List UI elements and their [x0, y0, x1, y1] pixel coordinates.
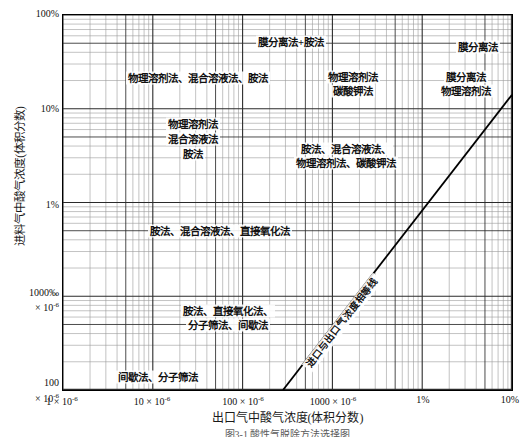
region-label-membrane: 膜分离法 [456, 41, 500, 54]
chart-plot-area: 膜分离法+胺法 膜分离法 物理溶剂法、混合溶液法、胺法 物理溶剂法 碳酸钾法 膜… [62, 14, 513, 391]
region-label-amine-mixed-physical-potash-line2: 物理溶剂法、碳酸钾法 [294, 157, 398, 170]
y-tick-1000ppm-line1: 1000‰ [29, 288, 59, 298]
region-label-amine-directox-sieve-batch-line2: 分子筛法、间歇法 [186, 319, 270, 332]
y-tick-1000ppm-line2: × 10-6 [35, 300, 59, 313]
x-tick-10ppm: 10 × 10-6 [134, 394, 170, 407]
y-tick-1000ppm-mantissa: × 10 [35, 302, 53, 313]
x-tick-1pct: 1% [416, 394, 429, 405]
x-tick-1ppm-mantissa: 1 × 10 [46, 396, 72, 407]
x-tick-1ppm-exponent: -6 [72, 395, 78, 403]
region-label-amine-directox-sieve-batch-line1: 胺法、直接氧化法、 [181, 305, 275, 318]
region-label-amine-mixed-physical-potash-line1: 胺法、混合溶液法、 [299, 143, 393, 156]
region-label-phys-mix-amine-line1: 物理溶剂法 [166, 118, 220, 131]
x-tick-1000ppm: 1000 × 10-6 [310, 394, 356, 407]
x-tick-10pct: 10% [501, 394, 519, 405]
y-tick-1pct: 1% [46, 200, 59, 210]
x-axis-title: 出口气中酸气浓度(体积分数) [62, 408, 513, 426]
x-tick-100ppm-mantissa: 100 × 10 [222, 396, 258, 407]
figure-caption: 图3-1 酸性气脱除方法选择图 [62, 426, 513, 437]
x-tick-1000ppm-mantissa: 1000 × 10 [310, 396, 351, 407]
x-tick-10ppm-exponent: -6 [164, 395, 170, 403]
region-label-amine-mixed-directox: 胺法、混合溶液法、直接氧化法 [148, 225, 292, 238]
y-tick-10pct: 10% [41, 104, 59, 114]
y-tick-1000ppm-exponent: -6 [53, 301, 59, 309]
x-tick-1ppm: 1 × 10-6 [46, 394, 77, 407]
region-label-membrane-plus-amine: 膜分离法+胺法 [256, 36, 326, 49]
x-tick-10ppm-mantissa: 10 × 10 [134, 396, 165, 407]
region-label-physical-potash-line1: 物理溶剂法 [326, 71, 380, 84]
x-tick-1000ppm-exponent: -6 [350, 395, 356, 403]
region-label-membrane-physical-line1: 膜分离法 [444, 71, 488, 84]
acid-gas-process-selection-figure: 进料气中酸气浓度(体积分数) 100% 10% 1% 1000‰ × 10-6 … [0, 0, 524, 437]
region-label-physical-potash-line2: 碳酸钾法 [331, 85, 375, 98]
y-axis-tick-labels: 100% 10% 1% 1000‰ × 10-6 100 × 10-6 [0, 0, 59, 400]
region-label-physical-mixed-amine: 物理溶剂法、混合溶液法、胺法 [126, 72, 270, 85]
region-label-membrane-physical-line2: 物理溶剂法 [439, 85, 493, 98]
x-tick-100ppm-exponent: -6 [258, 395, 264, 403]
y-tick-100ppm-line1: 100 [44, 378, 59, 388]
region-label-phys-mix-amine-line2: 混合溶液法 [166, 133, 220, 146]
x-tick-100ppm: 100 × 10-6 [222, 394, 263, 407]
y-tick-100pct: 100% [36, 9, 59, 19]
region-label-batch-sieve: 间歇法、分子筛法 [116, 371, 200, 384]
region-label-phys-mix-amine-line3: 胺法 [181, 148, 205, 161]
